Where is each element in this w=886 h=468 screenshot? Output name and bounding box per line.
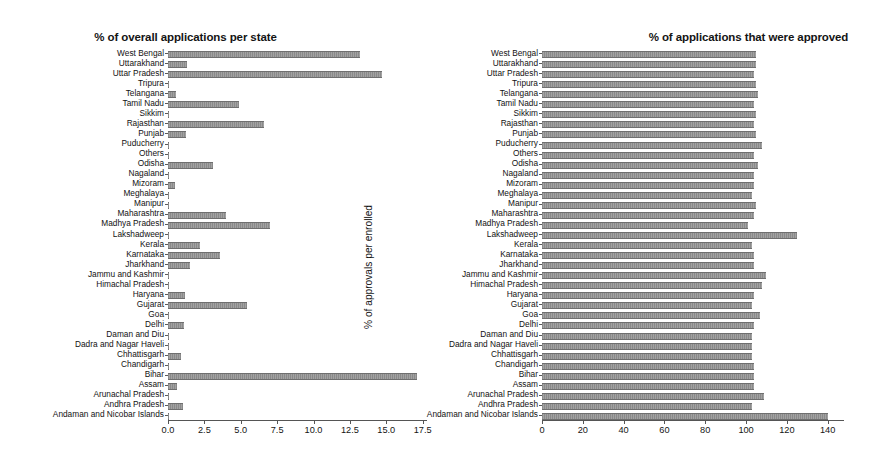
bar [168, 202, 169, 209]
category-tick-label: Dadra and Nagar Haveli [75, 340, 164, 349]
bar [168, 292, 185, 299]
bar-row: Meghalaya [168, 189, 427, 199]
category-tick-label: Puducherry [496, 139, 538, 148]
bar-row: Madhya Pradesh [542, 219, 844, 229]
bar [542, 222, 748, 229]
category-tick-label: Delhi [145, 320, 164, 329]
bar-row: Delhi [168, 319, 427, 329]
bar [542, 242, 752, 249]
bar [542, 61, 756, 68]
category-tick-label: Andaman and Nicobar Islands [53, 410, 164, 419]
bar [542, 142, 762, 149]
bar [542, 282, 762, 289]
category-tick-label: Chhattisgarh [117, 350, 164, 359]
x-tick-label: 80 [700, 425, 710, 435]
category-tick-label: Jharkhand [125, 260, 164, 269]
bar [542, 212, 754, 219]
x-tick-label: 12.5 [341, 425, 359, 435]
bar-row: Arunachal Pradesh [168, 390, 427, 400]
x-tick-label: 20 [578, 425, 588, 435]
bar-row: Andaman and Nicobar Islands [542, 410, 844, 420]
category-tick-label: Arunachal Pradesh [467, 390, 538, 399]
bar-row: Rajasthan [542, 118, 844, 128]
bar-row: Madhya Pradesh [168, 219, 427, 229]
category-tick-label: Uttarakhand [119, 59, 164, 68]
x-tick-mark [314, 420, 315, 424]
bar [542, 302, 752, 309]
x-tick-mark [542, 420, 543, 424]
category-tick-label: Rajasthan [127, 119, 164, 128]
bar-row: Tamil Nadu [168, 98, 427, 108]
category-tick-label: Lakshadweep [487, 230, 538, 239]
category-tick-label: Mizoram [506, 179, 538, 188]
category-tick-label: Punjab [138, 129, 164, 138]
category-tick-label: West Bengal [491, 49, 538, 58]
right-plot-area: West BengalUttarakhandUttar PradeshTripu… [542, 48, 844, 420]
bar-row: Daman and Diu [542, 330, 844, 340]
bar [168, 162, 213, 169]
x-tick-label: 5.0 [234, 425, 247, 435]
bar-row: Assam [168, 380, 427, 390]
bar-row: Tripura [168, 78, 427, 88]
category-tick-label: Tripura [512, 79, 538, 88]
category-tick-label: Himachal Pradesh [96, 280, 164, 289]
x-tick-label: 2.5 [198, 425, 211, 435]
category-tick-label: Daman and Diu [106, 330, 164, 339]
bar [168, 312, 169, 319]
bar [542, 363, 754, 370]
left-chart-panel: % of overall applications per state West… [0, 0, 443, 468]
bar-row: Kerala [542, 239, 844, 249]
bar [542, 373, 754, 380]
bar [168, 212, 226, 219]
category-tick-label: Delhi [519, 320, 538, 329]
bar [542, 262, 754, 269]
category-tick-label: Gujarat [511, 300, 538, 309]
category-tick-label: Andhra Pradesh [478, 400, 538, 409]
category-tick-label: Manipur [134, 199, 164, 208]
x-tick-label: 17.5 [414, 425, 432, 435]
x-tick-mark [277, 420, 278, 424]
category-tick-label: Others [139, 149, 164, 158]
right-bar-rows: West BengalUttarakhandUttar PradeshTripu… [542, 48, 844, 420]
bar [542, 152, 754, 159]
bar-row: Meghalaya [542, 189, 844, 199]
bar-row: Himachal Pradesh [168, 279, 427, 289]
bar-row: Kerala [168, 239, 427, 249]
bar [168, 383, 177, 390]
bar-row: Lakshadweep [168, 229, 427, 239]
bar [542, 252, 754, 259]
bar [168, 111, 169, 118]
category-tick-label: Telangana [500, 89, 538, 98]
bar [168, 242, 200, 249]
right-x-axis [542, 420, 844, 421]
category-tick-label: Maharashtra [117, 209, 164, 218]
bar-row: Puducherry [542, 139, 844, 149]
category-tick-label: Haryana [133, 290, 164, 299]
bar-row: West Bengal [168, 48, 427, 58]
category-tick-label: Tripura [138, 79, 164, 88]
category-tick-label: Meghalaya [497, 189, 538, 198]
category-tick-label: Uttar Pradesh [487, 69, 538, 78]
category-tick-label: Goa [522, 310, 538, 319]
category-tick-label: Meghalaya [123, 189, 164, 198]
bar [168, 353, 181, 360]
bar [542, 51, 756, 58]
bar [542, 182, 754, 189]
bar-row: Rajasthan [168, 118, 427, 128]
bar-row: Punjab [168, 128, 427, 138]
bar-row: Jammu and Kashmir [542, 269, 844, 279]
bar-row: Mizoram [542, 179, 844, 189]
x-tick-mark [787, 420, 788, 424]
bar [542, 192, 752, 199]
bar [542, 111, 756, 118]
bar-row: Haryana [168, 289, 427, 299]
bar-row: Chhattisgarh [542, 350, 844, 360]
bar-row: Maharashtra [168, 209, 427, 219]
category-tick-label: Chandigarh [121, 360, 164, 369]
bar [168, 232, 169, 239]
category-tick-label: Lakshadweep [113, 230, 164, 239]
bar [542, 121, 754, 128]
category-tick-label: Goa [148, 310, 164, 319]
bar [542, 232, 797, 239]
bar [168, 142, 169, 149]
